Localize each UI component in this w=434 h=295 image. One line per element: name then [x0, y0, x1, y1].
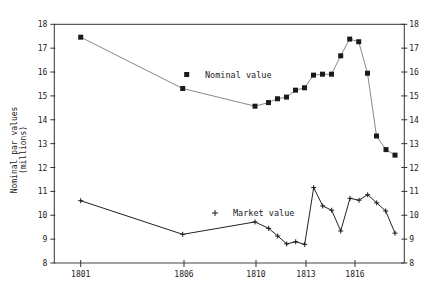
square-marker — [356, 39, 361, 44]
plus-marker — [311, 185, 316, 190]
square-marker — [180, 86, 185, 91]
plus-marker — [329, 208, 334, 213]
square-marker — [266, 100, 271, 105]
plot-frame — [54, 24, 404, 263]
square-marker — [365, 71, 370, 76]
plus-marker — [302, 242, 307, 247]
y-tick-label: 18 — [409, 20, 419, 29]
plus-marker — [78, 198, 83, 203]
y-tick-label: 9 — [42, 235, 47, 244]
y-tick-label: 17 — [409, 44, 419, 53]
y-tick-label: 18 — [38, 20, 48, 29]
y-tick-label: 10 — [38, 211, 48, 220]
y-tick-label: 13 — [38, 140, 48, 149]
y-tick-label: 8 — [42, 259, 47, 268]
plus-marker — [393, 231, 398, 236]
series-line-nominal-value — [81, 37, 395, 155]
x-tick-label: 1801 — [71, 270, 90, 279]
y-tick-label: 15 — [409, 92, 419, 101]
y-tick-label: 16 — [409, 68, 419, 77]
y-axis-label-line: Nominal par values — [10, 106, 19, 193]
x-tick-label: 1810 — [246, 270, 265, 279]
y-axis-label-line: (millions) — [19, 126, 28, 174]
square-marker — [338, 53, 343, 58]
plus-marker — [253, 219, 258, 224]
y-tick-label: 10 — [409, 211, 419, 220]
y-tick-label: 14 — [38, 116, 48, 125]
square-marker — [302, 85, 307, 90]
square-marker — [275, 96, 280, 101]
legend: Nominal valueMarket value — [184, 70, 294, 219]
y-axis-label: Nominal par values(millions) — [10, 106, 28, 193]
plus-marker — [338, 229, 343, 234]
y-tick-label: 9 — [409, 235, 414, 244]
y-tick-label: 12 — [38, 164, 48, 173]
square-marker — [374, 134, 379, 139]
square-marker — [384, 147, 389, 152]
plus-marker — [180, 232, 185, 237]
square-marker — [393, 153, 398, 158]
y-axis-left-ticks: 89101112131415161718 — [38, 20, 56, 268]
y-tick-label: 15 — [38, 92, 48, 101]
square-marker — [284, 95, 289, 100]
square-marker — [78, 35, 83, 40]
y-tick-label: 16 — [38, 68, 48, 77]
y-tick-label: 17 — [38, 44, 48, 53]
y-tick-label: 8 — [409, 259, 414, 268]
x-tick-label: 1816 — [345, 270, 364, 279]
legend-square-icon — [184, 72, 189, 77]
legend-plus-icon — [212, 210, 218, 216]
plus-marker — [348, 196, 353, 201]
square-marker — [320, 72, 325, 77]
square-marker — [347, 37, 352, 42]
x-tick-label: 1806 — [174, 270, 193, 279]
y-tick-label: 11 — [409, 187, 419, 196]
square-marker — [253, 104, 258, 109]
y-tick-label: 13 — [409, 140, 419, 149]
square-marker — [329, 72, 334, 77]
y-tick-label: 12 — [409, 164, 419, 173]
x-tick-label: 1813 — [296, 270, 315, 279]
y-tick-label: 14 — [409, 116, 419, 125]
legend-label: Nominal value — [205, 70, 272, 80]
plus-marker — [293, 239, 298, 244]
plus-marker — [320, 203, 325, 208]
legend-label: Market value — [233, 208, 294, 218]
square-marker — [311, 73, 316, 78]
plus-marker — [357, 198, 362, 203]
y-tick-label: 11 — [38, 187, 48, 196]
square-marker — [293, 88, 298, 93]
chart: 89101112131415161718 8910111213141516171… — [0, 0, 434, 295]
